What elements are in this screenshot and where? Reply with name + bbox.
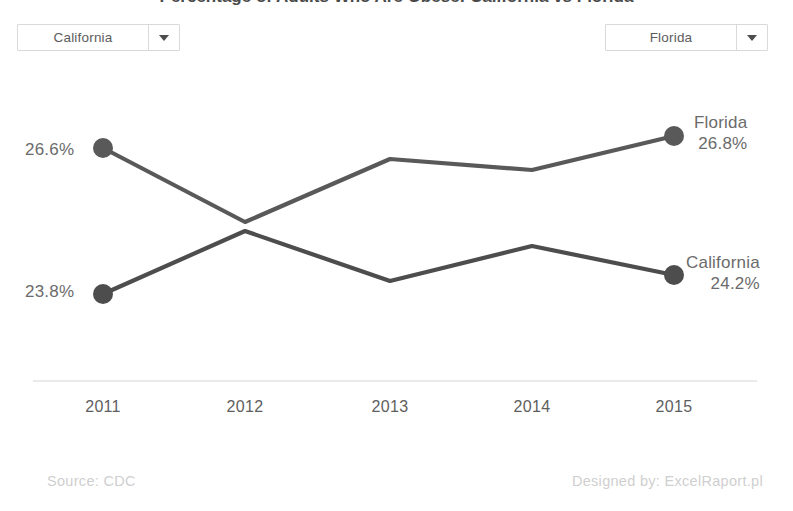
data-point-marker-florida-2011[interactable] (93, 138, 113, 158)
series-label-florida-value: 26.8% (694, 133, 747, 154)
x-axis-tick-2012: 2012 (200, 398, 290, 416)
source-note: Source: CDC (47, 473, 136, 489)
series-label-california-value: 24.2% (686, 273, 760, 294)
data-point-marker-california-2015[interactable] (664, 265, 684, 285)
x-axis-tick-2013: 2013 (345, 398, 435, 416)
series-label-florida: Florida 26.8% (694, 112, 747, 154)
series-line-california (103, 231, 674, 294)
x-axis-tick-2014: 2014 (487, 398, 577, 416)
x-axis-tick-2015: 2015 (629, 398, 719, 416)
value-label-florida-start: 26.6% (25, 140, 74, 160)
series-line-florida (103, 136, 674, 222)
x-axis-tick-2011: 2011 (58, 398, 148, 416)
series-label-california: California 24.2% (686, 252, 760, 294)
data-point-marker-california-2011[interactable] (93, 284, 113, 304)
series-label-california-name: California (686, 252, 760, 273)
credit-note: Designed by: ExcelRaport.pl (572, 473, 763, 489)
chart-app: Percentage of Adults Who Are Obese: Cali… (0, 0, 793, 511)
line-chart (0, 0, 793, 511)
chart-svg (0, 0, 793, 511)
series-label-florida-name: Florida (694, 112, 747, 133)
data-point-marker-florida-2015[interactable] (664, 126, 684, 146)
value-label-california-start: 23.8% (25, 282, 74, 302)
